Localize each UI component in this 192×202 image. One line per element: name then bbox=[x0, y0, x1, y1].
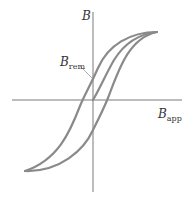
initial-magnetization-curve bbox=[93, 32, 157, 100]
hysteresis-diagram: B Bapp Brem bbox=[0, 0, 192, 202]
hysteresis-lower-branch bbox=[25, 32, 157, 171]
x-axis-label: Bapp bbox=[157, 107, 182, 123]
y-axis-label: B bbox=[81, 9, 91, 23]
remanence-label: Brem bbox=[59, 55, 85, 71]
hysteresis-upper-branch bbox=[25, 32, 157, 171]
